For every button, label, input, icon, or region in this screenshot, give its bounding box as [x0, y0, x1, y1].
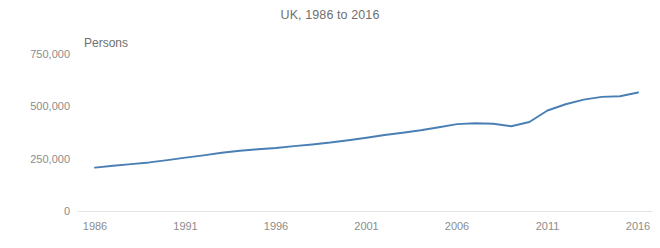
- x-tick-label: 2016: [626, 220, 650, 232]
- x-tick-label: 2006: [445, 220, 469, 232]
- x-axis-tick-labels: 1986199119962001200620112016: [0, 0, 660, 248]
- x-tick-label: 2001: [354, 220, 378, 232]
- line-chart: UK, 1986 to 2016 Persons 750,000500,0002…: [0, 0, 660, 248]
- x-tick-label: 1996: [264, 220, 288, 232]
- x-tick-label: 1991: [173, 220, 197, 232]
- x-tick-label: 1986: [83, 220, 107, 232]
- x-tick-label: 2011: [536, 220, 560, 232]
